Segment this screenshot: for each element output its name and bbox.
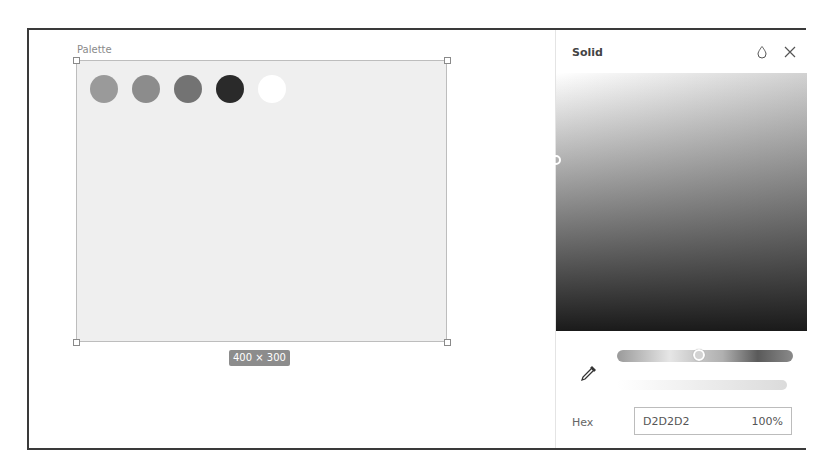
artboard-palette[interactable] xyxy=(76,60,447,342)
fill-type-title[interactable]: Solid xyxy=(572,46,603,59)
hue-slider[interactable] xyxy=(617,350,793,362)
close-icon[interactable] xyxy=(780,42,800,62)
color-swatch-4[interactable] xyxy=(216,75,244,103)
hex-input[interactable] xyxy=(643,415,723,428)
size-badge: 400 × 300 xyxy=(229,350,290,366)
color-swatch-5[interactable] xyxy=(258,75,286,103)
hex-label: Hex xyxy=(572,416,593,429)
hex-input-field[interactable]: 100% xyxy=(634,407,792,435)
frame-label[interactable]: Palette xyxy=(77,44,112,55)
resize-handle-bottom-right[interactable] xyxy=(444,339,451,346)
saturation-value-picker[interactable] xyxy=(556,73,807,331)
resize-handle-top-right[interactable] xyxy=(444,57,451,64)
hue-slider-thumb[interactable] xyxy=(693,349,705,361)
drop-icon[interactable] xyxy=(752,42,772,62)
color-picker-panel: Solid Hex 100% xyxy=(555,30,807,448)
eyedropper-icon[interactable] xyxy=(578,362,600,384)
opacity-slider[interactable] xyxy=(617,380,787,390)
resize-handle-top-left[interactable] xyxy=(73,57,80,64)
color-swatch-1[interactable] xyxy=(90,75,118,103)
sv-picker-thumb[interactable] xyxy=(551,155,561,165)
resize-handle-bottom-left[interactable] xyxy=(73,339,80,346)
color-swatch-2[interactable] xyxy=(132,75,160,103)
color-swatch-3[interactable] xyxy=(174,75,202,103)
opacity-value[interactable]: 100% xyxy=(752,415,783,428)
